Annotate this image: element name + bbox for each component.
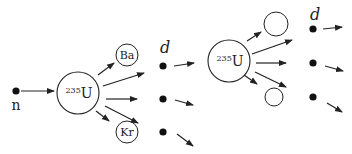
arrow <box>103 73 144 86</box>
neutron-dot <box>159 128 166 135</box>
arrow <box>175 100 193 105</box>
arrow <box>247 32 261 41</box>
neutron-dot <box>309 93 316 100</box>
arrow <box>177 134 193 146</box>
neutron-dot <box>159 95 166 102</box>
neutron-dot <box>309 25 316 32</box>
neutron-column-label: d <box>310 5 320 24</box>
arrow <box>327 103 342 112</box>
fragment-fragment-bottom <box>265 88 283 106</box>
arrow <box>96 111 109 121</box>
arrow <box>98 63 114 75</box>
arrow <box>325 66 343 71</box>
arrow <box>244 75 257 84</box>
neutron-label: n <box>11 97 20 113</box>
fragment-label: Ba <box>120 49 135 62</box>
fission-diagram: n235U235UBaKrdd <box>0 0 352 154</box>
arrow <box>255 72 286 87</box>
node-layer: n235U235UBaKrdd <box>11 5 320 143</box>
neutron-dot <box>159 62 166 69</box>
neutron-dot <box>12 87 19 94</box>
arrow <box>252 40 292 54</box>
arrow <box>174 63 194 66</box>
uranium-label: 235U <box>65 85 92 101</box>
arrow <box>105 106 138 123</box>
neutron-column-label: d <box>160 38 170 57</box>
fragment-fragment-top <box>264 12 288 36</box>
neutron-dot <box>309 59 316 66</box>
diagram-svg: n235U235UBaKrdd <box>0 0 352 154</box>
arrow <box>323 27 342 29</box>
fragment-label: Kr <box>120 126 134 139</box>
uranium-label: 235U <box>216 53 243 69</box>
